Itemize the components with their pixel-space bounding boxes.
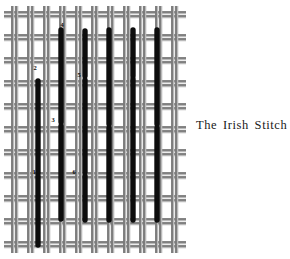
caption-label: The Irish Stitch [196, 118, 287, 133]
stitch-diagram-svg: 123456 [0, 0, 190, 259]
stitch-number-2: 2 [33, 64, 36, 71]
stitch-number-1: 1 [32, 168, 35, 175]
canvas-stitch-diagram: 123456 [0, 0, 190, 259]
irish-stitch-figure: 123456 The Irish Stitch [0, 0, 290, 259]
caption: The Irish Stitch [196, 114, 290, 136]
